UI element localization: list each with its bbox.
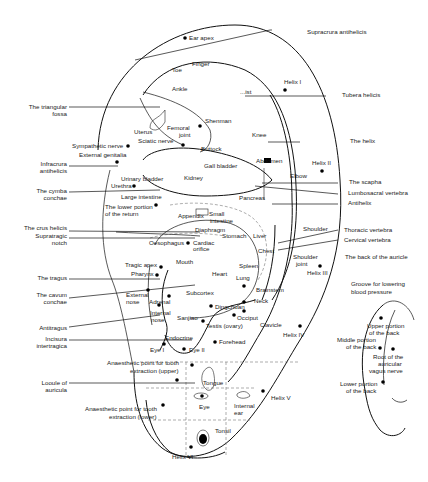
label-scapha: The scapha: [349, 178, 382, 185]
label-helix-4: Helix IV: [283, 331, 305, 338]
label-middle-back-2: of the back: [346, 343, 377, 350]
label-groove-2: blood pressure: [351, 288, 392, 295]
label-testis: Testis (ovary): [206, 322, 243, 329]
label-root-vagus: Root of the: [373, 353, 404, 360]
label-eye-1: Eye I: [150, 346, 164, 353]
label-tragic-apex: Tragic apex: [125, 261, 158, 268]
label-tragus: The tragus: [37, 274, 67, 281]
label-triangular-fossa-2: fossa: [52, 110, 67, 117]
label-eye: Eye: [199, 403, 210, 410]
label-cymba-conchae-2: conchae: [44, 194, 68, 201]
label-femoral-2: joint: [178, 131, 191, 138]
label-antihelix: Antihelix: [348, 199, 372, 206]
label-incisura: Incisura: [45, 335, 67, 342]
label-anaesthetic-upper-2: extraction (upper): [130, 367, 179, 374]
label-cervical: Cervical vertebra: [344, 236, 391, 243]
ear-acupuncture-diagram: The triangular fossa Infracrura antiheli…: [0, 0, 428, 482]
label-cardiac-2: orifice: [193, 245, 210, 252]
label-helix-5: Helix V: [271, 394, 291, 401]
label-small-intestine: Small: [209, 210, 224, 217]
label-supratragic-notch: Supratragic: [35, 232, 67, 239]
label-lower-rectum: The lower portion: [105, 203, 153, 210]
label-uterus: Uterus: [134, 128, 152, 135]
label-lung: Lung: [236, 274, 250, 281]
label-pancreas: Pancreas: [239, 194, 265, 201]
label-buttock: Buttock: [201, 145, 223, 152]
label-helix-1: Helix I: [284, 78, 301, 85]
label-brainstem: Brainstem: [256, 286, 284, 293]
label-kidney: Kidney: [184, 174, 204, 181]
label-spleen: Spleen: [239, 262, 259, 269]
label-root-vagus-3: vagus nerve: [369, 367, 403, 374]
label-large-intestine: Large intestine: [121, 193, 162, 200]
label-infracrura: Infracrura: [41, 160, 68, 167]
label-shoulder-joint: Shoulder: [293, 253, 318, 260]
tonsil-mouth-icon: [199, 434, 207, 444]
label-diaphragm: Diaphragm: [195, 226, 225, 233]
label-tongue: Tongue: [203, 379, 224, 386]
label-lobule: Looule of: [42, 379, 68, 386]
label-mouth: Mouth: [176, 258, 194, 265]
label-external-nose-2: nose: [126, 298, 140, 305]
label-shoulder: Shoulder: [303, 225, 328, 232]
label-infracrura-2: antihelicis: [40, 167, 67, 174]
label-lower-back: Lower portion: [340, 380, 378, 387]
label-sciatic: Sciatic nerve: [138, 137, 174, 144]
label-crus-helicis: The crus helicis: [24, 224, 67, 231]
label-external-nose: External: [126, 291, 149, 298]
label-shoulder-joint-2: joint: [295, 260, 308, 267]
label-supracrura: Supracrura antihelicis: [307, 28, 367, 35]
label-lower-back-2: of the back: [346, 387, 377, 394]
label-shenman: Shenman: [205, 117, 232, 124]
label-thoracic: Thoracic vertebra: [344, 226, 393, 233]
label-oesophagus: Oesophagus: [149, 239, 184, 246]
label-adrenal: Adrenal: [149, 298, 170, 305]
label-subcortex: Subcortex: [186, 289, 215, 296]
label-forehead: Forehead: [219, 338, 246, 345]
label-small-intestine-2: intestine: [210, 217, 234, 224]
label-anaesthetic-lower-2: extraction (lower): [109, 413, 156, 420]
label-cavum-conchae: The cavum: [36, 291, 67, 298]
label-upper-back-2: of the back: [369, 329, 400, 336]
label-sanjiao: Sanjiao: [177, 314, 198, 321]
label-helix-6: Helix VI: [172, 453, 194, 460]
label-incisura-2: intertragica: [36, 342, 67, 349]
label-internal-nose-2: nose: [151, 316, 165, 323]
label-chest: Chest: [258, 247, 274, 254]
label-supratragic-notch-2: notch: [52, 239, 68, 246]
label-the-helix: The helix: [350, 137, 376, 144]
label-clavicle: Clavicle: [260, 321, 282, 328]
label-wrist: ...ist: [240, 88, 252, 95]
label-helix-2: Helix II: [312, 159, 331, 166]
label-pharynx: Pharynx: [131, 270, 155, 277]
label-urinary-bladder: Urinary bladder: [121, 175, 163, 182]
label-antitragus: Antitragus: [39, 324, 67, 331]
label-triangular-fossa: The triangular: [29, 103, 67, 110]
label-toe: Toe: [172, 66, 183, 73]
right-region-labels: Supracrura antihelicis Tubera helicis Th…: [307, 28, 408, 243]
label-ear-apex: Ear apex: [189, 34, 215, 41]
label-elbow: Elbow: [290, 172, 307, 179]
label-knee: Knee: [252, 131, 267, 138]
label-internal-ear-2: ear: [234, 409, 243, 416]
label-cavum-conchae-2: conchae: [44, 298, 68, 305]
label-tubera-helicis: Tubera helicis: [342, 91, 380, 98]
label-middle-back: Middle portion: [337, 336, 376, 343]
label-lower-rectum-2: of the return: [105, 210, 139, 217]
back-of-auricle-labels: The back of the auricle Groove for lower…: [337, 253, 408, 394]
label-appendix: Appendix: [178, 212, 205, 219]
label-endocrine: Endocrine: [165, 334, 193, 341]
label-tonsil: Tonsil: [215, 427, 231, 434]
label-lumbosacral: Lumbosacral vertebra: [348, 189, 408, 196]
label-gall-bladder: Gall bladder: [204, 162, 237, 169]
label-helix-3: Helix III: [307, 269, 328, 276]
label-eye-2: Eye II: [189, 346, 205, 353]
internal-ear-icon: [237, 392, 250, 399]
label-occiput: Occiput: [237, 314, 258, 321]
label-cymba-conchae: The cymba: [36, 187, 67, 194]
label-internal-ear: Internal: [234, 402, 255, 409]
label-stomach: Stomach: [222, 232, 247, 239]
label-finger: Finger: [192, 60, 210, 67]
label-urethra: Urethra: [111, 182, 132, 189]
label-heart: Heart: [212, 270, 227, 277]
